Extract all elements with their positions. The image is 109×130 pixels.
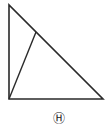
inner-segment [9,32,36,99]
triangle [9,5,103,99]
figure-label: Ⓗ [51,111,67,127]
